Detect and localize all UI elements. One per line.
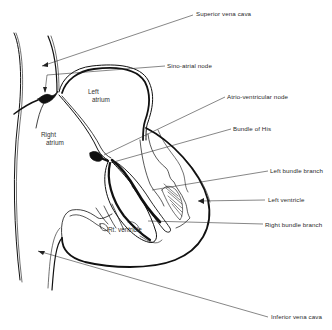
lv-trabeculae	[148, 134, 190, 228]
leader-lines	[38, 15, 268, 317]
label-left-ventricle: Left ventricle	[268, 197, 304, 203]
left-atrium-line1: Left	[88, 88, 110, 96]
leader-superior-vena-cava	[42, 15, 193, 66]
heart-illustration	[0, 0, 332, 330]
ivc-right-wall	[52, 238, 62, 290]
sa-node	[38, 91, 58, 103]
arrow-svc	[42, 62, 48, 67]
right-atrium-line2: atrium	[41, 139, 64, 147]
leader-av-node	[104, 97, 225, 155]
region-right-ventricle: Rt. ventricle	[108, 226, 142, 234]
label-superior-vena-cava: Superior vena cava	[196, 11, 251, 17]
label-inferior-vena-cava: Inferior vena cava	[271, 314, 322, 320]
leader-inferior-vena-cava	[38, 251, 268, 317]
label-right-bundle-branch: Right bundle branch	[265, 222, 322, 228]
lv-hatched-muscle	[162, 184, 183, 220]
left-ventricle-outer-wall	[62, 128, 209, 267]
interatrial-septum	[59, 95, 108, 160]
label-atrio-ventricular-node: Atrio-ventricular node	[227, 94, 288, 100]
leader-left-bundle-branch	[152, 171, 268, 190]
leader-right-bundle-branch	[148, 221, 263, 224]
arrow-ivc	[38, 251, 45, 255]
right-atrium-line1: Right	[41, 131, 64, 139]
leader-bundle-of-his	[110, 129, 231, 163]
label-sino-atrial-node: Sino-atrial node	[167, 63, 212, 69]
region-left-atrium: Left atrium	[88, 88, 110, 104]
left-atrium-line2: atrium	[88, 96, 110, 104]
heart-conduction-diagram: Superior vena cava Sino-atrial node Atri…	[0, 0, 332, 330]
arrow-sa-node	[43, 87, 47, 93]
label-bundle-of-his: Bundle of His	[233, 126, 271, 132]
region-right-atrium: Right atrium	[41, 131, 64, 147]
arrow-left-ventricle	[198, 198, 204, 204]
label-left-bundle-branch: Left bundle branch	[270, 168, 323, 174]
svc-right-wall	[48, 36, 57, 92]
